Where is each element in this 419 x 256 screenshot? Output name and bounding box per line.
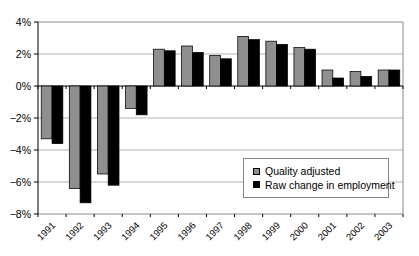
- bar-quality-adjusted-1998: [238, 36, 249, 86]
- bar-quality-adjusted-2002: [350, 72, 361, 86]
- x-tick-label: 1994: [119, 220, 142, 243]
- bar-raw-change-2001: [333, 78, 344, 86]
- x-tick-label: 2001: [315, 220, 338, 243]
- y-tick-label: −6%: [10, 176, 31, 188]
- bar-quality-adjusted-2001: [322, 70, 333, 86]
- raw-change-swatch-icon: [253, 181, 260, 188]
- y-tick-label: 0%: [16, 80, 31, 92]
- bar-raw-change-2000: [305, 49, 316, 86]
- bar-raw-change-1995: [164, 51, 175, 86]
- x-tick-label: 1999: [259, 220, 282, 243]
- bar-raw-change-1991: [52, 86, 63, 144]
- bar-raw-change-2003: [389, 70, 400, 86]
- bar-raw-change-1993: [108, 86, 119, 185]
- bar-quality-adjusted-2003: [378, 70, 389, 86]
- legend-label-raw-change: Raw change in employment: [265, 180, 395, 191]
- bar-quality-adjusted-1995: [154, 49, 165, 86]
- x-tick-label: 1996: [175, 220, 198, 243]
- legend-item-quality-adjusted: Quality adjusted: [253, 166, 388, 177]
- bar-quality-adjusted-2000: [294, 48, 305, 86]
- bar-quality-adjusted-1993: [97, 86, 108, 174]
- x-tick-label: 1993: [91, 220, 114, 243]
- quality-adjusted-swatch-icon: [253, 168, 260, 175]
- x-tick-label: 2000: [287, 220, 310, 243]
- bar-quality-adjusted-1996: [182, 46, 193, 86]
- bar-raw-change-1998: [249, 40, 260, 86]
- legend: Quality adjusted Raw change in employmen…: [243, 158, 389, 198]
- y-tick-label: 2%: [16, 48, 31, 60]
- bar-raw-change-1994: [136, 86, 147, 115]
- x-tick-label: 1997: [203, 220, 226, 243]
- legend-item-raw-change: Raw change in employment: [253, 180, 388, 191]
- legend-label-quality-adjusted: Quality adjusted: [265, 166, 340, 177]
- y-tick-label: −2%: [10, 112, 31, 124]
- bar-quality-adjusted-1991: [41, 86, 52, 139]
- bar-quality-adjusted-1997: [210, 56, 221, 86]
- x-tick-label: 1991: [35, 220, 58, 243]
- bar-raw-change-1992: [80, 86, 91, 203]
- x-tick-label: 2002: [344, 220, 367, 243]
- bar-raw-change-1999: [277, 44, 288, 86]
- y-tick-label: −4%: [10, 144, 31, 156]
- y-tick-label: −8%: [10, 208, 31, 220]
- bar-quality-adjusted-1992: [69, 86, 80, 188]
- bar-raw-change-2002: [361, 76, 372, 86]
- y-tick-label: 4%: [16, 16, 31, 28]
- bar-quality-adjusted-1994: [125, 86, 136, 108]
- bar-quality-adjusted-1999: [266, 41, 277, 86]
- bar-raw-change-1996: [192, 52, 203, 86]
- plot-area: 4%2%0%−2%−4%−6%−8%1991199219931994199519…: [0, 0, 419, 256]
- x-tick-label: 1998: [231, 220, 254, 243]
- x-tick-label: 2003: [372, 220, 395, 243]
- x-tick-label: 1992: [63, 220, 86, 243]
- x-tick-label: 1995: [147, 220, 170, 243]
- employment-change-bar-chart: 4%2%0%−2%−4%−6%−8%1991199219931994199519…: [0, 0, 419, 256]
- bar-raw-change-1997: [221, 59, 232, 86]
